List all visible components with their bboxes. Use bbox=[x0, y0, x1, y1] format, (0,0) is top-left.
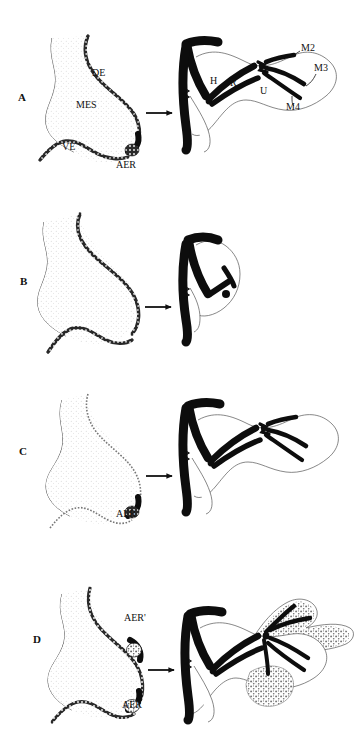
panel-d-letter: D bbox=[33, 634, 41, 645]
panel-c-letter: C bbox=[19, 446, 27, 457]
label-humerus: H bbox=[210, 76, 217, 86]
panel-a-letter: A bbox=[18, 92, 26, 103]
label-digit-m3: M3 bbox=[314, 63, 328, 73]
label-radius: R bbox=[230, 78, 237, 88]
label-dorsal-ectoderm: DE bbox=[92, 68, 105, 78]
figure-canvas: A DE MES VE AER H R U M2 M3 M4 B C AER D… bbox=[0, 0, 360, 752]
label-digit-m2: M2 bbox=[301, 43, 315, 53]
label-ulna: U bbox=[260, 86, 267, 96]
panel-b: B bbox=[0, 190, 360, 370]
label-mesenchyme: MES bbox=[76, 100, 97, 110]
panel-c: C AER bbox=[0, 370, 360, 560]
panel-b-letter: B bbox=[20, 276, 28, 287]
panel-d: D AER' AER bbox=[0, 560, 360, 752]
label-ventral-ectoderm: VE bbox=[62, 142, 75, 152]
label-aer-prime: AER' bbox=[124, 613, 146, 623]
label-digit-m4: M4 bbox=[286, 102, 300, 112]
label-aer-panel-c: AER bbox=[116, 509, 136, 519]
label-aer-panel-d: AER bbox=[122, 700, 142, 710]
label-aer-panel-a: AER bbox=[116, 160, 136, 170]
panel-a: A DE MES VE AER H R U M2 M3 M4 bbox=[0, 0, 360, 190]
